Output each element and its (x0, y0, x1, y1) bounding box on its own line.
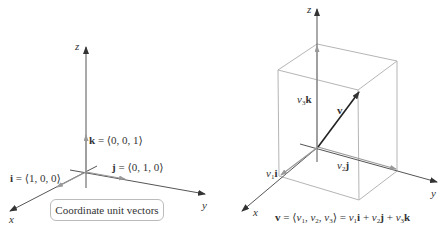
formula-plus2: + (384, 211, 396, 223)
diagram-canvas (0, 0, 445, 231)
v2j-component (318, 147, 396, 169)
i-eq: = ⟨1, 0, 0⟩ (13, 172, 61, 184)
formula-eq1: = ⟨ (281, 211, 297, 223)
v2j-unit: j (345, 159, 349, 171)
k-eq: = ⟨0, 0, 1⟩ (95, 134, 143, 146)
vector-v (318, 92, 359, 147)
v3k-label: v3k (297, 94, 312, 107)
v3k-unit: k (305, 93, 311, 105)
v1i-unit: i (274, 167, 277, 179)
j-vector (86, 172, 125, 179)
right-x-label: x (253, 207, 258, 218)
j-label: j = ⟨0, 1, 0⟩ (112, 162, 163, 173)
v2j-label: v2j (337, 160, 349, 173)
formula-eq2: ⟩ = (333, 211, 349, 223)
left-z-label: z (75, 41, 79, 52)
left-x-label: x (9, 214, 14, 225)
formula-t3u: k (404, 211, 410, 223)
j-eq: = ⟨0, 1, 0⟩ (116, 161, 164, 173)
k-label: k = ⟨0, 0, 1⟩ (89, 135, 143, 146)
right-z-label: z (307, 4, 311, 15)
i-label: i = ⟨1, 0, 0⟩ (10, 173, 61, 184)
left-y-label: y (202, 200, 207, 211)
right-y-axis (300, 144, 437, 182)
left-y-axis (70, 170, 205, 194)
i-vector (57, 172, 86, 187)
left-axes (10, 47, 205, 211)
right-y-label: y (431, 188, 436, 199)
v-label: v (337, 105, 343, 116)
component-formula: v = ⟨v1, v2, v3⟩ = v1i + v2j + v3k (275, 212, 410, 225)
v1i-label: v1i (266, 168, 277, 181)
formula-plus1: + (360, 211, 372, 223)
right-x-axis (242, 147, 318, 211)
v1i-component (281, 147, 318, 175)
caption-coordinate-unit-vectors: Coordinate unit vectors (50, 199, 164, 221)
